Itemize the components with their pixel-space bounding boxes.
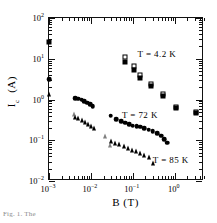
axis-tick	[173, 176, 174, 179]
axis-tick	[187, 176, 188, 179]
axis-tick	[199, 112, 202, 113]
axis-tick	[49, 65, 52, 66]
axis-tick	[165, 176, 166, 179]
axis-tick	[199, 106, 202, 107]
axis-tick	[199, 34, 202, 35]
axis-tick	[196, 140, 202, 141]
axis-tick	[49, 27, 52, 28]
axis-tick	[87, 176, 88, 179]
axis-tick	[49, 140, 55, 141]
data-point-marker	[131, 67, 136, 72]
axis-tick	[87, 18, 88, 21]
axis-tick	[49, 30, 52, 31]
axis-tick	[199, 30, 202, 31]
axis-tick	[62, 176, 63, 179]
axis-tick	[49, 147, 52, 148]
axis-tick	[199, 156, 202, 157]
axis-tick	[199, 128, 202, 129]
y-tick-label: 100	[33, 93, 45, 103]
axis-tick	[49, 34, 52, 35]
axis-tick	[153, 176, 154, 179]
axis-tick	[111, 176, 112, 179]
axis-tick	[196, 100, 202, 101]
axis-tick	[111, 18, 112, 21]
axis-tick	[195, 18, 196, 21]
axis-tick	[49, 103, 52, 104]
axis-tick	[129, 18, 130, 21]
axis-tick	[49, 142, 52, 143]
data-point-marker	[193, 111, 198, 116]
axis-tick	[204, 176, 205, 179]
axis-tick	[91, 18, 92, 24]
axis-tick	[49, 46, 52, 47]
axis-tick	[49, 24, 52, 25]
x-axis-title: B (T)	[48, 196, 203, 208]
axis-tick	[199, 103, 202, 104]
axis-tick	[204, 18, 205, 21]
figure-caption: Fig. 1. The	[3, 210, 36, 218]
axis-tick	[49, 100, 55, 101]
axis-tick	[84, 18, 85, 21]
axis-tick	[49, 116, 52, 117]
axis-tick	[49, 153, 52, 154]
axis-tick	[199, 24, 202, 25]
axis-tick	[49, 162, 52, 163]
axis-tick	[89, 18, 90, 21]
x-tick-label: 10−3	[41, 183, 56, 193]
data-point-marker	[47, 39, 52, 44]
axis-tick	[133, 18, 134, 24]
x-tick-label: 100	[168, 183, 180, 193]
data-point-marker	[47, 92, 51, 97]
data-point-marker	[47, 77, 52, 82]
axis-tick	[78, 176, 79, 179]
axis-tick	[199, 27, 202, 28]
plot-area: T = 4.2 KT = 72 KT = 85 K	[48, 17, 203, 180]
axis-tick	[49, 144, 52, 145]
data-point-marker	[148, 83, 153, 88]
axis-tick	[49, 71, 52, 72]
axis-tick	[175, 18, 176, 24]
axis-tick	[199, 162, 202, 163]
axis-tick	[82, 18, 83, 21]
series-temperature-label: T = 72 K	[122, 110, 158, 120]
axis-tick	[171, 18, 172, 21]
axis-tick	[199, 80, 202, 81]
axis-tick	[199, 65, 202, 66]
axis-tick	[131, 18, 132, 21]
axis-tick	[199, 109, 202, 110]
axis-tick	[199, 142, 202, 143]
axis-tick	[153, 18, 154, 21]
axis-tick	[69, 176, 70, 179]
axis-tick	[49, 149, 52, 150]
axis-tick	[49, 87, 52, 88]
axis-tick	[49, 63, 52, 64]
axis-tick	[116, 176, 117, 179]
data-point-marker	[109, 113, 114, 118]
axis-tick	[162, 18, 163, 21]
axis-tick	[49, 18, 50, 24]
axis-tick	[129, 176, 130, 179]
x-tick-label: 10−2	[82, 183, 97, 193]
axis-tick	[199, 63, 202, 64]
axis-tick	[49, 173, 50, 179]
axis-tick	[195, 176, 196, 179]
axis-tick	[124, 18, 125, 21]
axis-tick	[74, 176, 75, 179]
axis-tick	[116, 18, 117, 21]
x-axis-tick-labels: 10−310−210−1100	[48, 183, 203, 195]
axis-tick	[199, 87, 202, 88]
data-point-marker	[108, 143, 112, 148]
axis-tick	[199, 39, 202, 40]
axis-tick	[126, 18, 127, 21]
axis-tick	[168, 176, 169, 179]
axis-tick	[74, 18, 75, 21]
axis-tick	[62, 18, 63, 21]
data-point-marker	[103, 134, 107, 139]
axis-tick	[49, 109, 52, 110]
axis-tick	[171, 176, 172, 179]
axis-tick	[49, 169, 52, 170]
data-point-marker	[160, 94, 165, 99]
axis-tick	[84, 176, 85, 179]
axis-tick	[120, 176, 121, 179]
axis-tick	[49, 112, 52, 113]
